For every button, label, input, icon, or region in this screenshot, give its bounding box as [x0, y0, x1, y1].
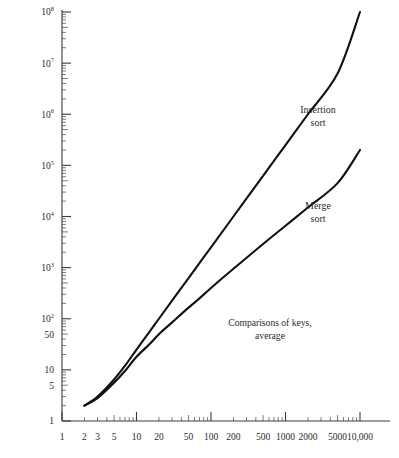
chart-note-annotation: Comparisons of keys,average: [228, 317, 311, 341]
x-tick-label: 5000: [328, 432, 347, 442]
x-tick-label: 500: [256, 432, 271, 442]
y-tick-label: 1: [49, 416, 54, 426]
y-axis-tick-labels: 151050102103104105106107108: [41, 5, 55, 426]
x-tick-label: 100: [204, 432, 219, 442]
x-tick-label: 1000: [276, 432, 295, 442]
x-tick-label: 50: [184, 432, 194, 442]
series-annotations: InsertionsortMergesort: [300, 104, 336, 224]
note-line-1: Comparisons of keys,: [228, 317, 311, 328]
svg-text:sort: sort: [311, 117, 326, 128]
y-tick-label: 107: [41, 56, 54, 68]
y-tick-label: 5: [49, 381, 54, 391]
x-tick-label: 20: [154, 432, 164, 442]
x-axis-ticks: [62, 412, 360, 421]
y-axis-ticks: [62, 12, 71, 421]
x-tick-label: 1: [60, 432, 65, 442]
x-tick-label: 200: [226, 432, 241, 442]
x-axis-tick-labels: 123510205010020050010002000500010,000: [60, 432, 374, 442]
y-tick-label: 104: [41, 210, 55, 222]
y-tick-label: 102: [41, 312, 54, 324]
svg-text:Merge: Merge: [305, 200, 331, 211]
y-tick-label: 108: [41, 5, 54, 17]
y-tick-label: 105: [41, 159, 54, 171]
x-tick-label: 2: [82, 432, 87, 442]
log-log-sorting-comparison-chart: 151050102103104105106107108 123510205010…: [0, 0, 399, 458]
y-tick-label: 50: [45, 330, 55, 340]
svg-text:sort: sort: [311, 213, 326, 224]
x-tick-label: 10,000: [347, 432, 373, 442]
x-tick-label: 3: [95, 432, 100, 442]
series-curve-merge-sort: [84, 150, 360, 406]
x-tick-label: 5: [112, 432, 117, 442]
series-label-merge-sort: Mergesort: [305, 200, 331, 224]
y-tick-label: 103: [41, 261, 54, 273]
x-tick-label: 2000: [298, 432, 317, 442]
y-tick-label: 106: [41, 107, 54, 119]
chart-container: 151050102103104105106107108 123510205010…: [0, 0, 399, 458]
svg-text:Insertion: Insertion: [300, 104, 336, 115]
x-tick-label: 10: [132, 432, 142, 442]
y-tick-label: 10: [45, 365, 55, 375]
note-line-2: average: [255, 330, 285, 341]
